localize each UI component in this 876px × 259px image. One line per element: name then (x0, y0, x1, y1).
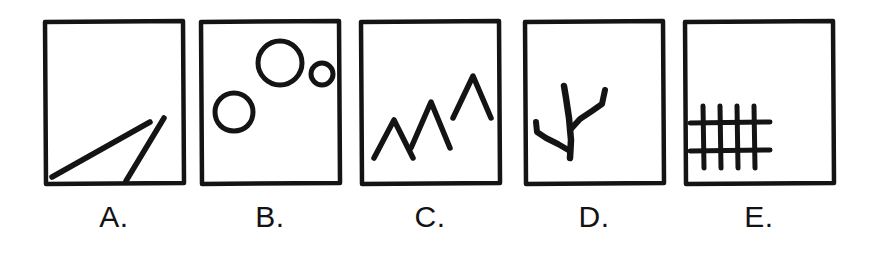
panel-e-vline-2 (720, 106, 721, 168)
panel-c-chevron-1 (374, 120, 413, 158)
panel-label-b: B. (198, 196, 342, 238)
panel-e-vline-1 (703, 106, 704, 168)
answer-panel-c[interactable] (358, 18, 502, 186)
panel-e-border (685, 21, 834, 184)
panel-e-hline-2 (690, 150, 770, 151)
panel-e-vline-3 (737, 106, 738, 168)
panel-label-c: C. (358, 196, 502, 238)
panel-e-hline-1 (690, 122, 770, 123)
panel-label-row: A. B. C. D. E. (0, 196, 876, 246)
answer-panel-d[interactable] (522, 18, 666, 186)
panel-a-border (45, 21, 184, 184)
panel-a-drawing (42, 18, 186, 186)
panel-d-drawing (522, 18, 666, 186)
panel-b-circle-large (258, 41, 302, 85)
answer-panel-a[interactable] (42, 18, 186, 186)
panel-c-drawing (358, 18, 502, 186)
panel-label-a: A. (42, 196, 186, 238)
panel-b-drawing (198, 18, 342, 186)
panel-e-drawing (682, 18, 836, 186)
panel-label-e: E. (682, 196, 836, 238)
panel-b-circle-left (215, 93, 253, 131)
panel-c-chevron-3 (453, 76, 491, 118)
panel-d-right-branch (570, 90, 605, 130)
panel-e-vline-4 (754, 106, 755, 168)
answer-panel-b[interactable] (198, 18, 342, 186)
panel-b-circle-small (311, 63, 333, 85)
panel-d-border (525, 21, 664, 184)
answer-panel-e[interactable] (682, 18, 836, 186)
panel-label-d: D. (522, 196, 666, 238)
answer-choice-figure: A. B. C. D. E. (0, 0, 876, 259)
panel-c-chevron-2 (411, 102, 450, 148)
panel-d-left-branch (536, 122, 570, 151)
